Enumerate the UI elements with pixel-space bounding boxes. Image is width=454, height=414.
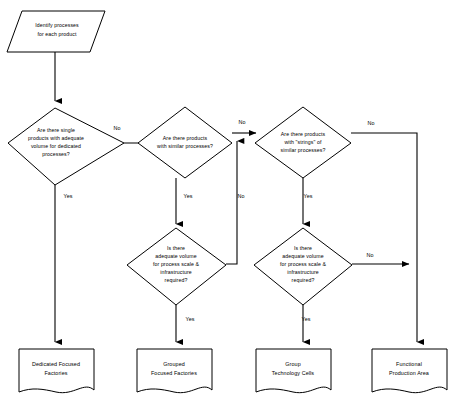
decision1-label-line1: Are there single [37, 127, 75, 133]
edge-label-decision2-no: No [238, 119, 245, 125]
start-label-line1: Identify processes [35, 22, 79, 28]
decision1-label-line4: processes? [42, 151, 70, 157]
flowchart-svg: Identify processes for each product Are … [0, 0, 454, 414]
outcome1-label-line2: Factories [44, 370, 67, 376]
outcome4-label-line2: Production Area [389, 370, 429, 376]
decision5-label-line1: Is there [294, 245, 312, 251]
decision5-label-line4: infrastructure [287, 269, 319, 275]
edge-label-decision2-yes: Yes [183, 193, 192, 199]
decision4-label-line3: for process scale & [153, 261, 199, 267]
node-outcome1: Dedicated Focused Factories [19, 349, 94, 393]
decision2-label-line1: Are there products [163, 135, 208, 141]
flowchart-canvas: Identify processes for each product Are … [0, 0, 454, 414]
outcome3-label-line1: Group [285, 361, 300, 367]
decision4-label-line1: Is there [167, 245, 185, 251]
decision4-label-line2: adequate volume [155, 253, 196, 259]
start-label-line2: for each product [37, 31, 77, 37]
edge-label-decision1-no: No [113, 125, 120, 131]
decision5-label-line2: adequate volume [282, 253, 323, 259]
node-decision5: Is there adequate volume for process sca… [254, 228, 352, 305]
edge-label-decision1-yes: Yes [63, 193, 72, 199]
decision4-label-line4: infrastructure [160, 269, 192, 275]
edge-decision4-no [226, 141, 237, 264]
outcome2-label-line2: Focused Factories [151, 370, 197, 376]
node-decision3: Are there products with "strings" of sim… [255, 107, 351, 178]
connector-layer [55, 52, 417, 342]
node-decision4: Is there adequate volume for process sca… [127, 228, 226, 305]
decision5-label-line5: required? [292, 277, 315, 283]
decision3-label-line2: with "strings" of [284, 139, 322, 145]
outcome2-label-line1: Grouped [163, 361, 185, 367]
edge-label-decision3-no: No [367, 120, 374, 126]
node-decision2: Are there products with similar processe… [138, 107, 232, 178]
decision4-label-line5: required? [165, 277, 188, 283]
node-outcome2: Grouped Focused Factories [137, 349, 212, 393]
edge-label-decision5-no: No [366, 252, 373, 258]
node-decision1: Are there single products with adequate … [8, 108, 124, 185]
edge-label-decision4-yes: Yes [185, 316, 194, 322]
edge-decision3-no [351, 133, 417, 342]
outcome1-label-line1: Dedicated Focused [32, 361, 80, 367]
node-start: Identify processes for each product [7, 11, 105, 52]
decision3-label-line3: similar processes? [281, 147, 326, 153]
edge-label-decision4-no: No [237, 193, 244, 199]
decision3-label-line1: Are there products [281, 131, 326, 137]
outcome3-label-line2: Technology Cells [272, 370, 315, 376]
node-outcome4: Functional Production Area [372, 349, 447, 393]
decision1-label-line3: volume for dedicated [31, 143, 81, 149]
edge-label-decision5-yes: Yes [301, 316, 310, 322]
outcome4-label-line1: Functional [396, 361, 422, 367]
node-outcome3: Group Technology Cells [256, 349, 331, 393]
decision5-label-line3: for process scale & [280, 261, 326, 267]
edge-label-decision3-yes: Yes [303, 193, 312, 199]
decision1-label-line2: products with adequate [28, 135, 84, 141]
decision2-label-line2: with similar processes? [157, 143, 213, 149]
